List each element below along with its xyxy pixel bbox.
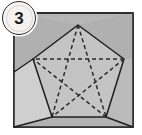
figure-container: 3: [0, 0, 142, 135]
step-number-badge: 3: [2, 1, 36, 35]
step-number-label: 3: [14, 10, 23, 27]
